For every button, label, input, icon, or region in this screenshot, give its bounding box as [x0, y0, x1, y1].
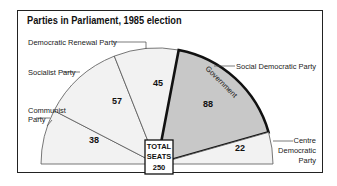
- value-socdem: 88: [203, 99, 213, 109]
- label-socialist: Socialist Party: [28, 68, 76, 77]
- value-renewal: 45: [153, 78, 163, 88]
- label-communist-1: Communist: [28, 106, 67, 115]
- total-line-1: TOTAL: [147, 142, 172, 151]
- label-centre-1: Centre: [293, 136, 316, 145]
- value-centre: 22: [235, 143, 245, 153]
- total-line-3: 250: [153, 163, 166, 172]
- label-communist-2: Party: [28, 115, 46, 124]
- value-communist: 38: [89, 135, 99, 145]
- label-centre-2: Democratic: [278, 146, 316, 155]
- value-socialist: 57: [112, 96, 122, 106]
- total-line-2: SEATS: [147, 152, 171, 161]
- label-democratic-renewal: Democratic Renewal Party: [28, 38, 117, 47]
- label-centre-3: Party: [298, 156, 316, 165]
- parliament-chart: Democratic Renewal Party Socialist Party…: [0, 0, 337, 186]
- label-social-democratic: Social Democratic Party: [236, 62, 316, 71]
